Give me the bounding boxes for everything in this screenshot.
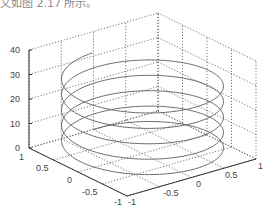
x-tick-label: 0 [196, 179, 201, 189]
z-tick-label: 20 [10, 94, 20, 104]
z-axis-tick-labels: 0 10 20 30 40 [10, 45, 20, 153]
x-tick-label: 1 [258, 161, 263, 171]
x-tick-label: -1 [128, 197, 136, 207]
x-axis-tick-labels: -1 -0.5 0 0.5 1 [128, 161, 263, 207]
y-axis-tick-labels: 1 0.5 0 -0.5 -1 [19, 152, 122, 207]
z-tick-label: 10 [10, 119, 20, 129]
helix-3d-plot: 0 10 20 30 40 1 0.5 0 -0.5 -1 -1 -0.5 0 … [0, 0, 271, 219]
x-tick-label: -0.5 [163, 188, 179, 198]
x-tick-label: 0.5 [225, 170, 238, 180]
y-tick-label: 1 [19, 152, 24, 162]
z-tick-label: 40 [10, 45, 20, 55]
y-tick-label: -0.5 [82, 187, 98, 197]
y-tick-label: 0.5 [36, 163, 49, 173]
y-tick-label: -1 [114, 197, 122, 207]
z-tick-label: 30 [10, 70, 20, 80]
y-tick-label: 0 [67, 175, 72, 185]
